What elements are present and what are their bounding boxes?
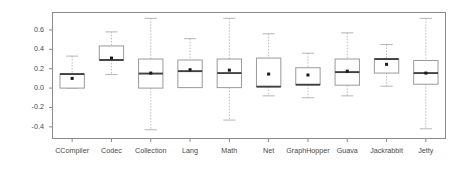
x-tick-label-collection: Collection [135, 146, 167, 155]
x-tick-label-jackrabbit: Jackrabbit [370, 146, 403, 155]
x-tick-label-ccompiler: CCompiler [55, 146, 89, 155]
x-tick-label-math: Math [221, 146, 237, 155]
x-tick-label-jetty: Jetty [418, 146, 433, 155]
x-tick-label-lang: Lang [182, 146, 198, 155]
boxplot-chart: Savings in Compilation 0.60.40.20.0-0.2-… [0, 0, 462, 169]
x-tick-label-guava: Guava [337, 146, 358, 155]
x-tick-label-graphhopper: GraphHopper [286, 146, 330, 155]
x-tick-label-net: Net [263, 146, 274, 155]
x-tick-labels: CCompilerCodecCollectionLangMathNetGraph… [0, 0, 462, 169]
x-tick-label-codec: Codec [101, 146, 122, 155]
